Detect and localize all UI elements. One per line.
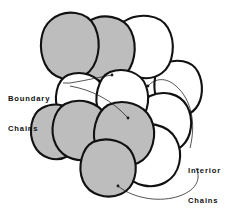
interior-chains-label: Interior Chains bbox=[188, 146, 221, 209]
interior-leader-arrow-lower bbox=[117, 185, 120, 188]
boundary-chains-label-line2: Chains bbox=[8, 124, 50, 134]
boundary-leader-arrow-lower bbox=[127, 117, 130, 120]
chain-diagram-figure: Boundary Chains Interior Chains bbox=[0, 0, 245, 209]
boundary-chains-label: Boundary Chains bbox=[8, 74, 50, 154]
interior-chains-label-line2: Chains bbox=[188, 196, 221, 206]
boundary-leader-arrow-upper bbox=[111, 74, 114, 77]
interior-leader-arrow-upper bbox=[147, 85, 150, 88]
cell-1-boundary bbox=[41, 13, 99, 80]
boundary-chains-label-line1: Boundary bbox=[8, 94, 50, 104]
interior-chains-label-line1: Interior bbox=[188, 166, 221, 176]
cell-10-boundary bbox=[80, 140, 135, 197]
